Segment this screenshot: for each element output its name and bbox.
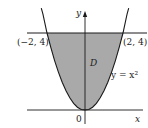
y-axis-label: y — [75, 8, 82, 18]
point-right-label: (2, 4) — [123, 37, 147, 47]
diagram-canvas: y x 0 (−2, 4) (2, 4) D y = x² — [0, 0, 148, 128]
y-axis-arrow-icon — [83, 11, 87, 17]
region-diagram: y x 0 (−2, 4) (2, 4) D y = x² — [0, 0, 148, 128]
point-left-label: (−2, 4) — [17, 37, 49, 47]
x-axis-label: x — [135, 114, 140, 124]
curve-equation-label: y = x² — [110, 70, 138, 80]
region-label: D — [89, 58, 97, 68]
origin-label: 0 — [76, 114, 82, 124]
